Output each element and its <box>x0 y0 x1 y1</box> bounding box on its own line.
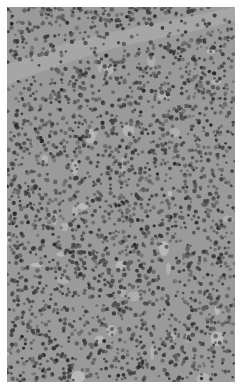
micrograph-image: Grayscale micrograph of densely packed s… <box>7 7 235 382</box>
tissue-texture <box>7 7 235 382</box>
